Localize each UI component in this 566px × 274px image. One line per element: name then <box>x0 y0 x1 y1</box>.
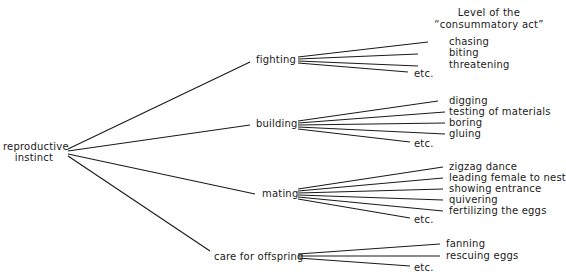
leaf-showing-entrance: showing entrance <box>449 183 541 194</box>
level-header: Level of the “consummatory act” <box>424 7 554 31</box>
edge-root-fighting <box>68 62 250 149</box>
edge-root-building <box>68 125 250 151</box>
leaf-care-etc: etc. <box>414 262 434 273</box>
leaf-building-etc: etc. <box>414 138 434 149</box>
leaf-digging: digging <box>449 95 488 106</box>
branch-building: building <box>256 118 298 129</box>
leaf-fertilizing-the-eggs: fertilizing the eggs <box>449 205 547 216</box>
edge-root-mating <box>68 154 255 194</box>
leaf-leading-female-to-nest: leading female to nest <box>449 172 566 183</box>
leaf-quivering: quivering <box>449 194 498 205</box>
level-header-line2: “consummatory act” <box>424 19 554 31</box>
branch-fighting: fighting <box>256 54 296 65</box>
leaf-threatening: threatening <box>449 59 510 70</box>
leaf-testing-of-materials: testing of materials <box>449 106 551 117</box>
branch-care-for-offspring: care for offspring <box>214 251 304 262</box>
leaf-rescuing-eggs: rescuing eggs <box>446 250 518 261</box>
leaf-boring: boring <box>449 117 482 128</box>
root-line2: instinct <box>3 152 65 163</box>
leaf-biting: biting <box>449 47 479 58</box>
branch-mating: mating <box>262 188 298 199</box>
leaf-fighting-etc: etc. <box>414 68 434 79</box>
leaf-fanning: fanning <box>446 238 485 249</box>
leaf-mating-etc: etc. <box>414 214 434 225</box>
root-node: reproductive instinct <box>3 141 65 163</box>
leaf-zigzag-dance: zigzag dance <box>449 161 517 172</box>
root-line1: reproductive <box>3 141 65 152</box>
level-header-line1: Level of the <box>424 7 554 19</box>
edge-root-care <box>68 156 210 251</box>
leaf-chasing: chasing <box>449 36 489 47</box>
leaf-gluing: gluing <box>449 128 481 139</box>
